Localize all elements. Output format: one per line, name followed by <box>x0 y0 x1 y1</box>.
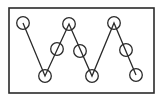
zigzag-diagram <box>0 0 163 103</box>
zigzag-line <box>23 23 136 76</box>
circle-nodes <box>17 17 143 83</box>
circle-node-5 <box>74 45 87 58</box>
